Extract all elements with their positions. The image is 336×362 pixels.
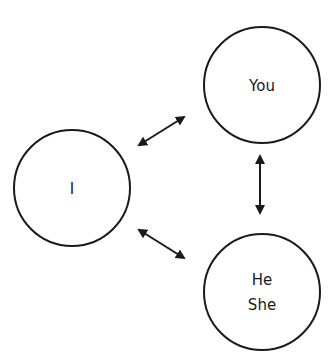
- node-label: I: [70, 180, 74, 198]
- double-arrow-i-you: [144, 117, 184, 142]
- node-label: He: [252, 271, 273, 289]
- pronoun-relationship-diagram: IYouHeShe: [0, 0, 336, 362]
- nodes-layer: IYouHeShe: [14, 27, 320, 350]
- node-label: She: [248, 296, 276, 314]
- node-he-she: HeShe: [204, 234, 320, 350]
- double-arrow-i-he-she: [144, 233, 184, 258]
- node-i: I: [14, 130, 130, 246]
- node-you: You: [204, 27, 320, 143]
- node-label: You: [248, 77, 275, 95]
- node-circle: [204, 234, 320, 350]
